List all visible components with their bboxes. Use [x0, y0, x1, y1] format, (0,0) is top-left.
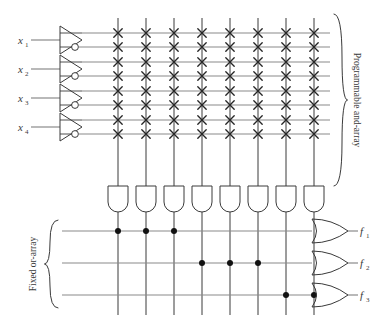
or-gate-3[interactable]: [312, 283, 348, 307]
pla-diagram: x1x2x3x4f1f2f3Programmable and-arrayFixe…: [0, 0, 379, 325]
and-gate-8[interactable]: [304, 186, 324, 212]
or-gate-2[interactable]: [312, 251, 348, 275]
and-gate-5[interactable]: [220, 186, 240, 212]
connection-dot-r3-c7[interactable]: [283, 292, 289, 298]
and-gate-7[interactable]: [276, 186, 296, 212]
and-array-annotation: Programmable and-array: [334, 14, 362, 186]
and-array-label: Programmable and-array: [352, 53, 362, 148]
or-gate-column: f1f2f3: [312, 219, 370, 307]
inversion-bubble-1: [72, 44, 79, 51]
output-label-subscript-2: 2: [366, 264, 370, 272]
and-gate-6[interactable]: [248, 186, 268, 212]
buffer-inverter-triangle-3: [60, 84, 82, 112]
input-label-subscript-2: 2: [25, 70, 29, 78]
curly-brace-right-icon: [334, 14, 348, 186]
output-label-2: f: [360, 257, 365, 269]
input-label-2: x: [17, 63, 23, 75]
curly-brace-left-icon: [44, 220, 58, 308]
or-array-sum-lines: [62, 231, 312, 295]
and-array-product-lines: [118, 18, 314, 186]
input-label-subscript-4: 4: [25, 128, 29, 136]
output-label-subscript-3: 3: [366, 296, 370, 304]
output-label-subscript-1: 1: [366, 232, 370, 240]
inversion-bubble-2: [72, 73, 79, 80]
and-gate-4[interactable]: [192, 186, 212, 212]
input-label-3: x: [17, 92, 23, 104]
input-label-subscript-3: 3: [25, 99, 29, 107]
connection-dot-r1-c2[interactable]: [143, 228, 149, 234]
pla-diagram-canvas: x1x2x3x4f1f2f3Programmable and-arrayFixe…: [0, 0, 379, 325]
buffer-inverter-triangle-4: [60, 113, 82, 141]
connection-dot-r1-c3[interactable]: [171, 228, 177, 234]
and-gate-1[interactable]: [108, 186, 128, 212]
output-label-3: f: [360, 289, 365, 301]
output-label-1: f: [360, 225, 365, 237]
or-array-annotation: Fixed or-array: [28, 220, 58, 308]
inversion-bubble-3: [72, 102, 79, 109]
and-gate-row: [108, 186, 324, 315]
buffer-inverter-triangle-2: [60, 55, 82, 83]
connection-dot-r1-c1[interactable]: [115, 228, 121, 234]
and-gate-2[interactable]: [136, 186, 156, 212]
and-gate-3[interactable]: [164, 186, 184, 212]
input-label-1: x: [17, 34, 23, 46]
or-gate-1[interactable]: [312, 219, 348, 243]
input-label-4: x: [17, 121, 23, 133]
and-array-crosspoints: [114, 29, 318, 138]
or-array-label: Fixed or-array: [28, 237, 38, 292]
connection-dot-r2-c5[interactable]: [227, 260, 233, 266]
connection-dot-r2-c4[interactable]: [199, 260, 205, 266]
buffer-inverter-triangle-1: [60, 26, 82, 54]
inversion-bubble-4: [72, 131, 79, 138]
input-label-subscript-1: 1: [25, 41, 29, 49]
connection-dot-r2-c6[interactable]: [255, 260, 261, 266]
